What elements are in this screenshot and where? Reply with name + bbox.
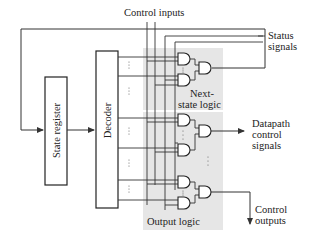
control-unit-diagram: Control inputs Status signals State regi…	[0, 0, 309, 243]
control-inputs-label: Control inputs	[124, 7, 184, 18]
control-outputs-label-line2: outputs	[255, 215, 286, 226]
status-label-line1: Status	[268, 30, 294, 41]
status-label-line2: signals	[268, 41, 297, 52]
and-gate-icon	[178, 53, 190, 65]
or-gate-icon	[199, 125, 211, 137]
next-state-label-line2: state logic	[178, 99, 221, 110]
output-logic-label: Output logic	[147, 216, 200, 227]
or-gate-icon	[199, 62, 211, 74]
decoder-ellipsis	[128, 61, 129, 192]
control-outputs-label-line1: Control	[255, 204, 287, 215]
and-gate-icon	[178, 144, 190, 156]
and-gate-icon	[178, 114, 190, 126]
and-gate-icon	[178, 197, 190, 209]
next-state-label-line1: Next-	[190, 88, 214, 99]
datapath-label-line1: Datapath	[252, 118, 290, 129]
datapath-label-line2: control	[252, 129, 282, 140]
or-gate-icon	[199, 186, 211, 198]
and-gate-icon	[178, 176, 190, 188]
state-register-label: State register	[51, 95, 62, 167]
decoder-label: Decoder	[102, 98, 113, 144]
and-gate-icon	[178, 74, 190, 86]
datapath-label-line3: signals	[252, 140, 281, 151]
